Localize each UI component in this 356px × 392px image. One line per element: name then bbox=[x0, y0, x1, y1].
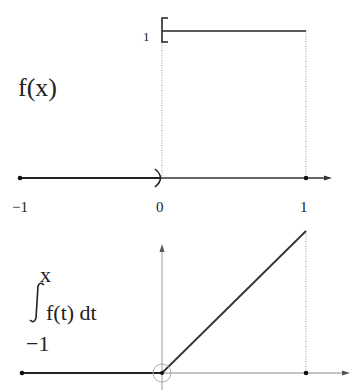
origin-dot bbox=[160, 371, 164, 375]
integral-lower-limit: −1 bbox=[26, 331, 49, 356]
x-tick-neg1: −1 bbox=[12, 199, 28, 215]
integral-dot-1 bbox=[304, 371, 309, 376]
x-tick-1: 1 bbox=[300, 199, 308, 215]
endpoint-dot-1 bbox=[304, 176, 309, 181]
integral-sign-icon bbox=[30, 283, 44, 321]
closed-bracket-endpoint bbox=[162, 18, 168, 42]
top-y-label: f(x) bbox=[18, 73, 57, 102]
x-tick-0: 0 bbox=[156, 199, 164, 215]
top-y-tick-1: 1 bbox=[143, 29, 150, 44]
top-chart: f(x) 1 −1 0 1 bbox=[12, 18, 332, 215]
endpoint-dot-neg1 bbox=[18, 176, 23, 181]
bottom-x-axis-arrow-icon bbox=[342, 371, 350, 376]
top-x-axis-arrow-icon bbox=[324, 176, 332, 181]
integral-dot-neg1 bbox=[20, 371, 25, 376]
bottom-y-axis-arrow-icon bbox=[160, 244, 165, 252]
integral-integrand: f(t) dt bbox=[46, 300, 97, 325]
bottom-chart: x f(t) dt −1 bbox=[20, 231, 350, 390]
integral-ramp bbox=[162, 231, 306, 373]
piecewise-function-figure: f(x) 1 −1 0 1 x f(t) dt −1 bbox=[0, 0, 356, 392]
